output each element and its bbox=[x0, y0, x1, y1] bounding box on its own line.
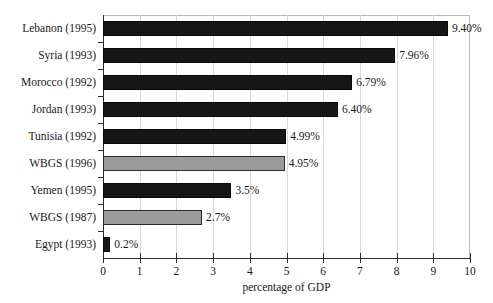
y-axis-tick bbox=[98, 123, 104, 124]
bar bbox=[103, 156, 285, 171]
x-axis-tick bbox=[250, 253, 251, 263]
bar-value-label: 0.2% bbox=[114, 235, 138, 254]
bar bbox=[103, 129, 286, 144]
category-label: Egypt (1993) bbox=[0, 231, 96, 258]
x-axis-title: percentage of GDP bbox=[103, 281, 470, 293]
x-axis-tick bbox=[176, 253, 177, 263]
category-label: Jordan (1993) bbox=[0, 96, 96, 123]
bar-value-label: 4.99% bbox=[290, 127, 320, 146]
x-axis-tick-label: 8 bbox=[382, 264, 412, 278]
bar bbox=[103, 102, 338, 117]
x-axis-tick-label: 6 bbox=[308, 264, 338, 278]
x-axis-tick bbox=[433, 253, 434, 263]
x-axis-tick-label: 5 bbox=[272, 264, 302, 278]
x-axis-tick-label: 10 bbox=[455, 264, 485, 278]
x-axis-tick-label: 3 bbox=[198, 264, 228, 278]
x-axis-tick bbox=[213, 253, 214, 263]
bar-value-label: 9.40% bbox=[452, 19, 482, 38]
bar bbox=[103, 183, 231, 198]
bar-value-label: 7.96% bbox=[399, 46, 429, 65]
y-axis-tick bbox=[98, 69, 104, 70]
x-axis-tick bbox=[103, 253, 104, 263]
bar bbox=[103, 48, 395, 63]
category-label: Tunisia (1992) bbox=[0, 123, 96, 150]
y-axis-tick bbox=[98, 204, 104, 205]
x-axis-tick bbox=[323, 253, 324, 263]
x-axis-tick-label: 2 bbox=[161, 264, 191, 278]
bar-value-label: 2.7% bbox=[206, 208, 230, 227]
y-axis-tick bbox=[98, 96, 104, 97]
bar-value-label: 6.40% bbox=[342, 100, 372, 119]
x-axis-tick-label: 1 bbox=[125, 264, 155, 278]
bar bbox=[103, 75, 352, 90]
y-axis-tick bbox=[98, 150, 104, 151]
category-label: Lebanon (1995) bbox=[0, 15, 96, 42]
y-axis-tick bbox=[98, 177, 104, 178]
y-axis-tick bbox=[98, 231, 104, 232]
bar-value-label: 6.79% bbox=[356, 73, 386, 92]
y-axis-tick bbox=[98, 42, 104, 43]
category-label: WBGS (1996) bbox=[0, 150, 96, 177]
bar bbox=[103, 237, 110, 252]
x-axis-tick bbox=[397, 253, 398, 263]
x-axis-tick bbox=[470, 253, 471, 263]
bar-value-label: 3.5% bbox=[235, 181, 259, 200]
x-axis-tick-label: 0 bbox=[88, 264, 118, 278]
category-label: Morocco (1992) bbox=[0, 69, 96, 96]
category-label: WBGS (1987) bbox=[0, 204, 96, 231]
category-label: Yemen (1995) bbox=[0, 177, 96, 204]
x-axis-tick bbox=[140, 253, 141, 263]
bar-chart: 9.40%7.96%6.79%6.40%4.99%4.95%3.5%2.7%0.… bbox=[0, 0, 493, 303]
bar bbox=[103, 21, 448, 36]
bar-value-label: 4.95% bbox=[289, 154, 319, 173]
x-axis-tick-label: 7 bbox=[345, 264, 375, 278]
x-axis-tick bbox=[360, 253, 361, 263]
x-axis-tick-label: 9 bbox=[418, 264, 448, 278]
x-axis-tick-label: 4 bbox=[235, 264, 265, 278]
bar bbox=[103, 210, 202, 225]
category-label: Syria (1993) bbox=[0, 42, 96, 69]
x-axis-tick bbox=[287, 253, 288, 263]
